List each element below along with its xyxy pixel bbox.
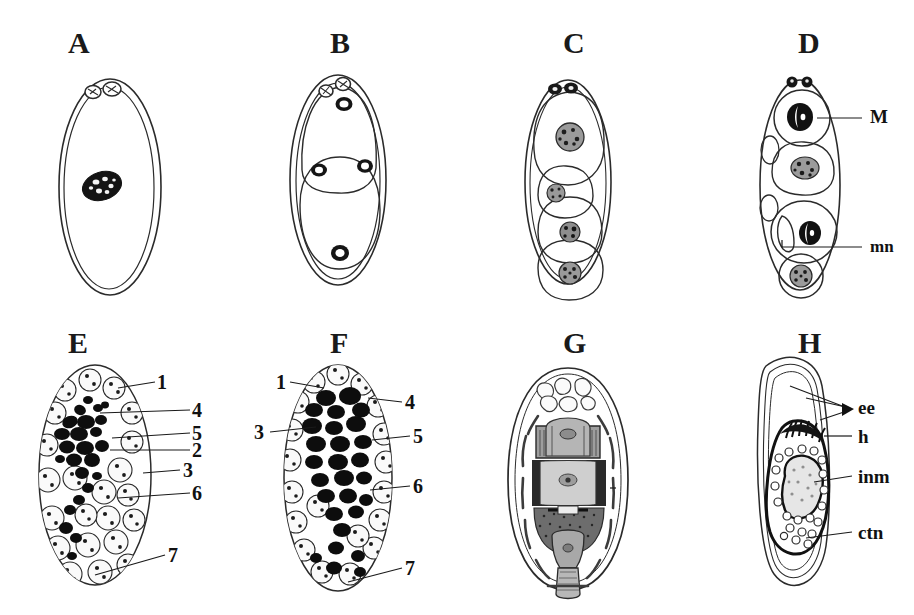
panel-letter-c: C <box>563 28 585 58</box>
panel-b: B <box>230 0 460 310</box>
panel-letter-g: G <box>563 328 586 358</box>
panel-c: C <box>460 0 690 310</box>
micronucleus <box>778 216 794 252</box>
label-f-1: 1 <box>276 372 286 392</box>
panel-h: H <box>690 310 914 615</box>
label-mn: mn <box>870 238 894 255</box>
nuclei-b <box>311 97 373 261</box>
label-f-4: 4 <box>405 392 415 412</box>
macromere-nucleus <box>787 103 813 131</box>
label-h: h <box>858 427 869 446</box>
panel-letter-h: H <box>798 328 821 358</box>
label-inm: inm <box>858 467 890 486</box>
label-e-6: 6 <box>192 483 202 503</box>
polar-bodies-a <box>85 82 121 99</box>
label-e-3: 3 <box>183 460 193 480</box>
label-ee: ee <box>858 398 875 417</box>
apical-cells-g <box>537 378 595 412</box>
panel-f: F <box>230 310 460 615</box>
mid-body-g <box>532 460 606 506</box>
panel-a-drawing <box>0 0 230 310</box>
panel-d: D <box>690 0 914 310</box>
label-ctn: ctn <box>858 523 883 542</box>
figure-plate: A <box>0 0 914 615</box>
panel-letter-d: D <box>798 28 820 58</box>
head-region-g <box>536 418 600 458</box>
panel-g: G <box>460 310 690 615</box>
panel-a: A <box>0 0 230 310</box>
panel-e: E <box>0 310 230 615</box>
polar-bodies-d <box>787 77 813 88</box>
label-e-7: 7 <box>168 545 178 565</box>
label-e-4: 4 <box>192 400 202 420</box>
label-f-5: 5 <box>413 426 423 446</box>
panel-letter-f: F <box>330 328 348 358</box>
zygote-nucleus-a <box>79 167 126 206</box>
panel-e-drawing <box>0 310 230 615</box>
panel-letter-e: E <box>68 328 88 358</box>
label-f-7: 7 <box>405 558 415 578</box>
label-e-2: 2 <box>192 440 202 460</box>
label-e-1: 1 <box>157 372 167 392</box>
tail-region-g <box>552 530 584 599</box>
cell-mass-e <box>36 369 145 586</box>
arrowhead-ee <box>842 403 854 416</box>
label-f-3: 3 <box>254 422 264 442</box>
label-m: M <box>870 107 888 126</box>
panel-letter-b: B <box>330 28 350 58</box>
label-f-6: 6 <box>413 476 423 496</box>
panel-letter-a: A <box>68 28 90 58</box>
